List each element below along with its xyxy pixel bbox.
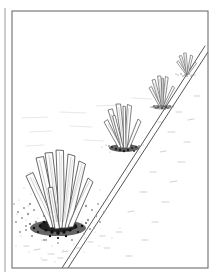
illustration-canvas <box>0 0 216 277</box>
illustration-page: four agave-like plants in receding persp… <box>0 0 216 277</box>
